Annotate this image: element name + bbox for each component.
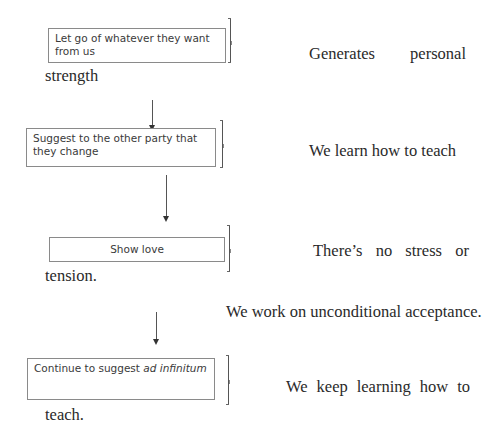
step-4-outcome-word: to bbox=[457, 377, 470, 397]
step-4-outcome-line1: We keep learning how to bbox=[286, 377, 470, 397]
step-1-outcome-line1: Generates personal bbox=[309, 44, 466, 64]
step-2-outcome-line1: We learn how to teach bbox=[309, 141, 456, 161]
step-4-bracket bbox=[228, 355, 232, 405]
step-4-outcome-word: keep bbox=[317, 377, 348, 397]
step-4-outcome-word: We bbox=[286, 377, 308, 397]
step-1-outcome-word: personal bbox=[410, 44, 466, 64]
step-4-outcome-line2: teach. bbox=[45, 405, 84, 425]
step-2-box-text: Suggest to the other party that they cha… bbox=[33, 132, 197, 157]
step-3-outcome-word: no bbox=[376, 241, 393, 261]
step-3-outcome-word: or bbox=[455, 241, 469, 261]
step-4-box-text: Continue to suggest bbox=[34, 362, 143, 374]
step-1-outcome-word: Generates bbox=[309, 44, 375, 64]
arrow-down-icon bbox=[156, 312, 157, 340]
step-2-bracket bbox=[222, 120, 226, 168]
step-4-box: Continue to suggest ad infinitum bbox=[27, 358, 215, 400]
step-2-box: Suggest to the other party that they cha… bbox=[26, 128, 216, 167]
step-3-outcome-word: There’s bbox=[313, 241, 362, 261]
step-3-box: Show love bbox=[49, 237, 225, 262]
step-3-outcome-line2: tension. bbox=[45, 266, 97, 286]
step-1-outcome-line2: strength bbox=[45, 66, 98, 86]
step-3-outcome-word: stress bbox=[405, 241, 442, 261]
step-3-outcome-extra: We work on unconditional acceptance. bbox=[226, 302, 482, 322]
step-1-box: Let go of whatever they want from us bbox=[48, 28, 226, 63]
step-3-outcome-line1: There’s no stress or bbox=[313, 241, 469, 261]
step-1-bracket bbox=[230, 18, 234, 63]
step-4-outcome-word: learning bbox=[357, 377, 411, 397]
step-4-outcome-word: how bbox=[420, 377, 448, 397]
step-3-bracket bbox=[229, 225, 233, 272]
arrow-down-icon bbox=[166, 175, 167, 217]
step-1-box-text: Let go of whatever they want from us bbox=[55, 32, 210, 57]
arrow-down-icon bbox=[152, 100, 153, 126]
step-4-box-text-italic: ad infinitum bbox=[143, 362, 206, 374]
step-3-box-text: Show love bbox=[110, 243, 164, 255]
